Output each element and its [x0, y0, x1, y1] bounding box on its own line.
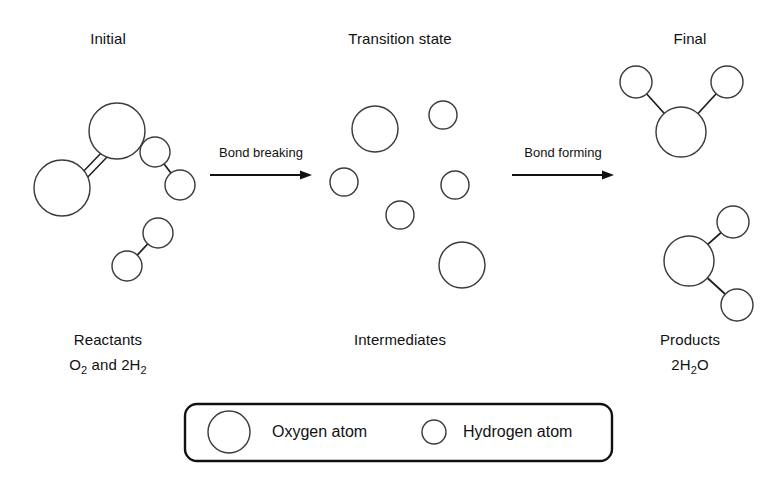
- caption-products: Products: [660, 331, 720, 348]
- reaction-diagram: Initial Transition state Final: [0, 0, 772, 485]
- atom-oxygen: [352, 106, 398, 152]
- arrow-label-bond-breaking: Bond breaking: [219, 145, 303, 160]
- formula-h-subscript: 2: [141, 364, 147, 376]
- heading-transition-state: Transition state: [348, 30, 452, 47]
- atom-hydrogen: [165, 170, 195, 200]
- atom-hydrogen: [717, 206, 749, 238]
- atom-hydrogen: [429, 101, 457, 129]
- atom-hydrogen: [721, 289, 753, 321]
- atom-hydrogen: [386, 201, 414, 229]
- atom-oxygen: [656, 107, 706, 157]
- caption-intermediates: Intermediates: [354, 331, 446, 348]
- atom-hydrogen: [112, 251, 142, 281]
- atom-hydrogen: [143, 218, 173, 248]
- water-molecule: [620, 66, 743, 157]
- stage-final: Products 2H2O: [620, 66, 753, 376]
- atom-oxygen: [34, 160, 90, 216]
- atom-hydrogen: [620, 66, 652, 98]
- formula-2h: 2H: [671, 356, 690, 373]
- diagram-canvas: Initial Transition state Final: [0, 0, 772, 485]
- atom-oxygen: [89, 103, 145, 159]
- oxygen-atom-icon: [208, 411, 250, 453]
- legend-label-hydrogen: Hydrogen atom: [463, 423, 572, 440]
- transition-arrow-bond-forming: Bond forming: [512, 145, 614, 180]
- hydrogen-molecule: [140, 137, 195, 200]
- stage-initial: Reactants O2 and 2H2: [34, 103, 195, 376]
- heading-initial: Initial: [90, 30, 126, 47]
- heading-final: Final: [673, 30, 706, 47]
- arrow-head-icon: [300, 171, 312, 180]
- atom-hydrogen: [711, 66, 743, 98]
- water-molecule: [664, 206, 753, 321]
- atom-hydrogen: [140, 137, 170, 167]
- arrow-label-bond-forming: Bond forming: [524, 145, 601, 160]
- legend: Oxygen atom Hydrogen atom: [185, 404, 612, 461]
- oxygen-molecule: [34, 103, 145, 216]
- caption-reactants: Reactants: [74, 331, 142, 348]
- formula-and-h: and 2H: [87, 356, 140, 373]
- atom-oxygen: [664, 236, 714, 286]
- caption-reactants-formula: O2 and 2H2: [69, 356, 146, 376]
- formula-o-symbol: O: [69, 356, 81, 373]
- hydrogen-atom-icon: [422, 420, 446, 444]
- hydrogen-molecule: [112, 218, 173, 281]
- transition-arrow-bond-breaking: Bond breaking: [210, 145, 312, 180]
- legend-label-oxygen: Oxygen atom: [272, 423, 367, 440]
- atom-oxygen: [439, 242, 485, 288]
- atom-hydrogen: [330, 168, 358, 196]
- formula-o-symbol: O: [697, 356, 709, 373]
- arrow-head-icon: [602, 171, 614, 180]
- atom-hydrogen: [441, 171, 469, 199]
- caption-products-formula: 2H2O: [671, 356, 708, 376]
- stage-transition-state: Intermediates: [330, 101, 485, 348]
